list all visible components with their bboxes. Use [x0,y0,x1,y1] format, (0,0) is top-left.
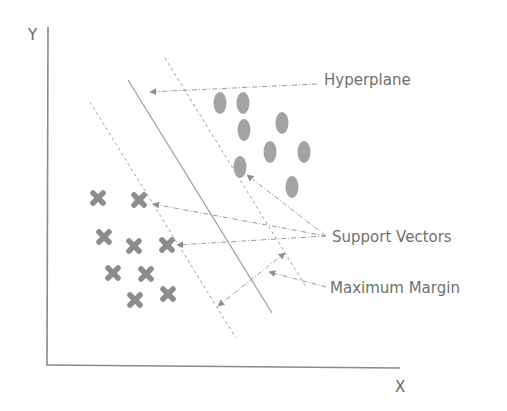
annotation-arrows [150,84,326,306]
class-b-points [93,193,173,305]
class-a-points [214,92,311,198]
support-vectors-label: Support Vectors [332,228,452,246]
y-axis [47,27,48,365]
hyperplane-label: Hyperplane [324,71,411,89]
svm-diagram [0,0,507,411]
hyperplane-arrow [150,84,317,92]
support-vector-arrow-3 [177,236,326,245]
support-vector-arrow-2 [153,204,326,236]
x-axis-label: X [395,378,405,396]
y-axis-label: Y [28,26,37,44]
maximum-margin-label: Maximum Margin [330,279,460,297]
margin-double-arrow [218,253,285,306]
x-axis [46,365,400,368]
maximum-margin-arrow [269,272,326,287]
